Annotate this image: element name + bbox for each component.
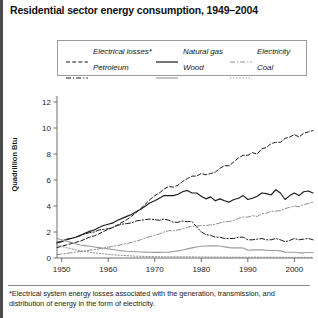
- legend-label: Electrical losses*: [93, 47, 152, 56]
- y-tick-label: 12: [42, 98, 51, 107]
- x-tick-label: 1990: [239, 265, 257, 274]
- plot-area: Quadrillion Btu 024681012195019601970198…: [0, 82, 318, 277]
- x-tick-label: 2000: [285, 265, 303, 274]
- chart-figure: Residential sector energy consumption, 1…: [0, 0, 318, 318]
- series-line-petroleum: [57, 219, 313, 242]
- legend-item-wood: Wood: [156, 59, 204, 75]
- legend-label: Electricity: [257, 47, 290, 56]
- footnote-divider: [8, 285, 310, 286]
- legend-item-petroleum: Petroleum: [66, 59, 129, 75]
- legend-item-electricity: Electricity: [230, 43, 290, 59]
- legend-label: Wood: [183, 63, 204, 72]
- legend-row: PetroleumWoodCoal: [58, 59, 306, 75]
- y-tick-label: 8: [47, 150, 52, 159]
- y-tick-label: 6: [47, 176, 52, 185]
- legend-item-coal: Coal: [230, 59, 273, 75]
- legend-swatch-icon: [156, 51, 178, 52]
- series-line-wood: [57, 239, 313, 253]
- legend-item-electrical-losses: Electrical losses*: [66, 43, 152, 59]
- y-tick-label: 2: [47, 228, 52, 237]
- legend-item-natural-gas: Natural gas: [156, 43, 223, 59]
- x-tick-label: 1970: [146, 265, 164, 274]
- x-tick-label: 1980: [192, 265, 210, 274]
- legend-swatch-icon: [66, 67, 88, 68]
- footnote-text: *Electrical system energy losses associa…: [9, 289, 309, 309]
- legend-label: Coal: [257, 63, 273, 72]
- page-title: Residential sector energy consumption, 1…: [10, 4, 310, 17]
- x-tick-label: 1950: [53, 265, 71, 274]
- legend-label: Natural gas: [183, 47, 223, 56]
- y-tick-label: 4: [47, 202, 52, 211]
- y-tick-label: 10: [42, 124, 51, 133]
- chart-legend: Electrical losses*Natural gasElectricity…: [57, 40, 307, 76]
- legend-row: Electrical losses*Natural gasElectricity: [58, 43, 306, 59]
- legend-swatch-icon: [66, 51, 88, 52]
- legend-swatch-icon: [230, 51, 252, 52]
- legend-swatch-icon: [230, 67, 252, 68]
- x-tick-label: 1960: [99, 265, 117, 274]
- legend-label: Petroleum: [93, 63, 129, 72]
- line-chart-svg: 024681012195019601970198019902000: [0, 82, 318, 277]
- legend-swatch-icon: [156, 67, 178, 68]
- y-tick-label: 0: [47, 254, 52, 263]
